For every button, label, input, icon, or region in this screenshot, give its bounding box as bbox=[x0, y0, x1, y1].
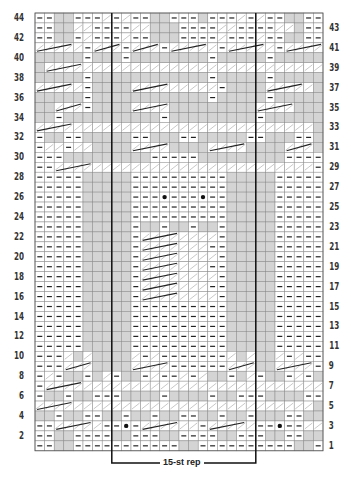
shaded-cell bbox=[131, 73, 141, 83]
shaded-cell bbox=[93, 53, 103, 63]
shaded-cell bbox=[169, 431, 179, 441]
shaded-cell bbox=[275, 411, 285, 421]
shaded-cell bbox=[169, 23, 179, 33]
shaded-cell bbox=[227, 103, 237, 113]
shaded-cell bbox=[83, 391, 93, 401]
row-number-left: 14 bbox=[8, 311, 24, 322]
shaded-cell bbox=[83, 242, 93, 252]
shaded-cell bbox=[83, 341, 93, 351]
shaded-cell bbox=[73, 73, 83, 83]
shaded-cell bbox=[198, 113, 208, 123]
shaded-cell bbox=[227, 212, 237, 222]
shaded-cell bbox=[265, 302, 275, 312]
shaded-cell bbox=[313, 83, 323, 93]
shaded-cell bbox=[198, 411, 208, 421]
row-number-left: 32 bbox=[8, 131, 24, 142]
shaded-cell bbox=[150, 53, 160, 63]
shaded-cell bbox=[121, 371, 131, 381]
row-number-left: 22 bbox=[8, 231, 24, 242]
row-number-left: 24 bbox=[8, 211, 24, 222]
shaded-cell bbox=[275, 132, 285, 142]
shaded-cell bbox=[102, 202, 112, 212]
shaded-cell bbox=[227, 292, 237, 302]
shaded-cell bbox=[227, 192, 237, 202]
shaded-cell bbox=[102, 152, 112, 162]
shaded-cell bbox=[93, 142, 103, 152]
row-number-left: 4 bbox=[8, 410, 24, 421]
shaded-cell bbox=[150, 132, 160, 142]
shaded-cell bbox=[112, 212, 122, 222]
shaded-cell bbox=[45, 93, 55, 103]
shaded-cell bbox=[179, 113, 189, 123]
shaded-cell bbox=[35, 63, 45, 73]
shaded-cell bbox=[275, 73, 285, 83]
shaded-cell bbox=[265, 142, 275, 152]
shaded-cell bbox=[131, 371, 141, 381]
shaded-cell bbox=[294, 33, 304, 43]
shaded-cell bbox=[179, 93, 189, 103]
shaded-cell bbox=[45, 132, 55, 142]
shaded-cell bbox=[294, 73, 304, 83]
shaded-cell bbox=[256, 242, 266, 252]
shaded-cell bbox=[189, 93, 199, 103]
shaded-cell bbox=[73, 113, 83, 123]
shaded-cell bbox=[160, 431, 170, 441]
shaded-cell bbox=[179, 103, 189, 113]
shaded-cell bbox=[246, 252, 256, 262]
shaded-cell bbox=[112, 262, 122, 272]
shaded-cell bbox=[217, 93, 227, 103]
shaded-cell bbox=[285, 93, 295, 103]
row-number-left: 10 bbox=[8, 350, 24, 361]
shaded-cell bbox=[256, 222, 266, 232]
shaded-cell bbox=[294, 113, 304, 123]
shaded-cell bbox=[246, 341, 256, 351]
shaded-cell bbox=[93, 212, 103, 222]
shaded-cell bbox=[54, 73, 64, 83]
shaded-cell bbox=[112, 152, 122, 162]
shaded-cell bbox=[112, 113, 122, 123]
shaded-cell bbox=[208, 132, 218, 142]
shaded-cell bbox=[93, 302, 103, 312]
shaded-cell bbox=[256, 212, 266, 222]
shaded-cell bbox=[237, 83, 247, 93]
shaded-cell bbox=[285, 391, 295, 401]
shaded-cell bbox=[112, 132, 122, 142]
shaded-cell bbox=[93, 192, 103, 202]
shaded-cell bbox=[256, 331, 266, 341]
shaded-cell bbox=[150, 73, 160, 83]
shaded-cell bbox=[35, 411, 45, 421]
shaded-cell bbox=[131, 411, 141, 421]
shaded-cell bbox=[265, 331, 275, 341]
shaded-cell bbox=[256, 282, 266, 292]
shaded-cell bbox=[112, 222, 122, 232]
shaded-cell bbox=[256, 152, 266, 162]
shaded-cell bbox=[35, 113, 45, 123]
shaded-cell bbox=[246, 331, 256, 341]
shaded-cell bbox=[93, 83, 103, 93]
shaded-cell bbox=[237, 312, 247, 322]
shaded-cell bbox=[160, 411, 170, 421]
row-number-right: 33 bbox=[329, 121, 339, 132]
shaded-cell bbox=[93, 202, 103, 212]
shaded-cell bbox=[64, 23, 74, 33]
shaded-cell bbox=[54, 132, 64, 142]
shaded-cell bbox=[112, 312, 122, 322]
shaded-cell bbox=[227, 53, 237, 63]
shaded-cell bbox=[217, 113, 227, 123]
shaded-cell bbox=[83, 132, 93, 142]
shaded-cell bbox=[227, 222, 237, 232]
shaded-cell bbox=[112, 142, 122, 152]
shaded-cell bbox=[246, 103, 256, 113]
shaded-cell bbox=[121, 302, 131, 312]
shaded-cell bbox=[313, 93, 323, 103]
shaded-cell bbox=[45, 411, 55, 421]
shaded-cell bbox=[121, 391, 131, 401]
shaded-cell bbox=[102, 242, 112, 252]
shaded-cell bbox=[112, 331, 122, 341]
shaded-cell bbox=[112, 192, 122, 202]
shaded-cell bbox=[208, 222, 218, 232]
shaded-cell bbox=[83, 232, 93, 242]
shaded-cell bbox=[227, 312, 237, 322]
shaded-cell bbox=[256, 192, 266, 202]
shaded-cell bbox=[73, 53, 83, 63]
